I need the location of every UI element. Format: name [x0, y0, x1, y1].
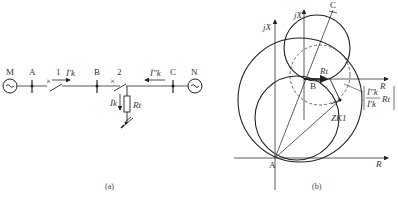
label-bus-c: C [170, 67, 176, 77]
label-zk1: ZK1 [331, 113, 347, 123]
diagram-canvas: M A × 1 İ′k B × 2 İ″k C [0, 0, 398, 200]
breaker-1-switch [50, 84, 62, 91]
caption-a: (a) [105, 182, 114, 191]
label-breaker-1: 1 [56, 67, 61, 77]
lower-circle [255, 76, 339, 160]
label-m: M [6, 67, 14, 77]
label-point-a: A [269, 160, 276, 170]
label-breaker-2: 2 [117, 67, 122, 77]
label-bus-b: B [94, 67, 100, 77]
label-ratio-num: İ″k [366, 87, 379, 97]
line-zk1 [275, 100, 340, 158]
caption-b: (b) [312, 182, 322, 191]
label-jx-a: jX [262, 22, 272, 32]
label-r-a: R [375, 159, 382, 169]
label-current-ik: İk [109, 98, 118, 108]
label-rt: Rt [132, 100, 141, 110]
label-point-c: C [330, 0, 336, 10]
fault-resistor [124, 96, 130, 112]
label-bus-a: A [29, 67, 36, 77]
large-circle [238, 38, 362, 162]
label-current-ik-prime: İ′k [65, 68, 76, 78]
figure-b: jX R A jX R B C Rt ZK1 İ″k [234, 0, 394, 191]
label-current-ik-dprime: İ″k [149, 68, 162, 78]
source-m: M [3, 67, 17, 93]
ac-symbol-icon [6, 85, 14, 88]
source-n: N [188, 67, 202, 93]
svg-text:×: × [46, 76, 51, 86]
label-ratio-den: İ′k [366, 99, 377, 109]
label-r-b: R [379, 81, 386, 91]
label-n: N [191, 67, 198, 77]
label-rt-b: Rt [319, 66, 328, 76]
ac-symbol-icon [191, 85, 199, 88]
svg-text:×: × [110, 76, 115, 86]
breaker-2-switch [114, 84, 126, 91]
figure-a: M A × 1 İ′k B × 2 İ″k C [3, 67, 202, 191]
upper-circle [284, 15, 350, 81]
label-ratio-rt: Rt [381, 94, 390, 104]
label-point-b: B [310, 81, 316, 91]
